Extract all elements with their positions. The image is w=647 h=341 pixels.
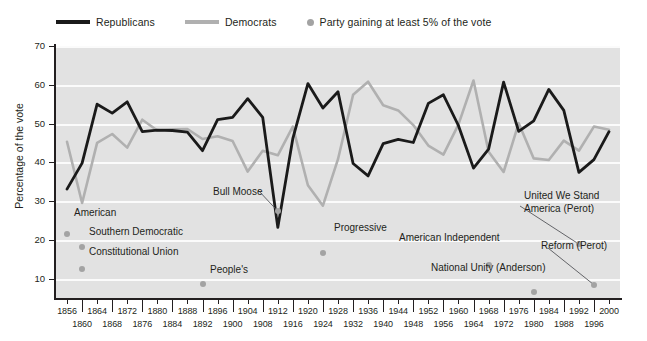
x-tick-label-1988: 1988	[547, 319, 581, 329]
x-tick-label-1976: 1976	[502, 306, 536, 316]
plot-area	[56, 46, 620, 298]
annotation-american: American	[74, 207, 116, 219]
third-party-dot-progressive	[320, 250, 326, 256]
x-tick-1872	[127, 299, 128, 304]
x-tick-label-1892: 1892	[186, 319, 220, 329]
y-tick-10	[49, 279, 54, 280]
y-tick-label-10: 10	[19, 273, 45, 284]
x-tick-1912	[278, 299, 279, 304]
x-tick-1856	[67, 299, 68, 304]
x-tick-label-1992: 1992	[562, 306, 596, 316]
x-tick-label-1996: 1996	[577, 319, 611, 329]
legend-label-democrats: Democrats	[225, 16, 277, 28]
chart-legend: Republicans Democrats Party gaining at l…	[56, 14, 491, 30]
x-tick-1952	[428, 299, 429, 304]
x-tick-label-1940: 1940	[366, 319, 400, 329]
democrats-line-swatch	[185, 20, 219, 24]
x-tick-1944	[398, 299, 399, 304]
x-tick-label-1936: 1936	[351, 306, 385, 316]
x-tick-label-1972: 1972	[487, 319, 521, 329]
x-tick-1960	[458, 299, 459, 304]
annotation-national-unity: National Unity (Anderson)	[431, 262, 546, 274]
y-tick-label-70: 70	[19, 40, 45, 51]
annotation-peoples: People's	[210, 264, 248, 276]
y-tick-50	[49, 124, 54, 125]
x-tick-1936	[368, 299, 369, 304]
y-tick-40	[49, 162, 54, 163]
x-tick-label-1880: 1880	[140, 306, 174, 316]
x-tick-1976	[519, 299, 520, 304]
annotation-bull-moose: Bull Moose	[213, 186, 262, 198]
x-tick-label-1956: 1956	[426, 319, 460, 329]
x-tick-label-1928: 1928	[321, 306, 355, 316]
y-tick-20	[49, 240, 54, 241]
annotation-uwsa-line1: United We Stand	[524, 190, 599, 202]
y-tick-label-30: 30	[19, 195, 45, 206]
x-tick-label-1924: 1924	[306, 319, 340, 329]
x-tick-label-1916: 1916	[276, 319, 310, 329]
x-tick-1992	[579, 299, 580, 304]
third-party-dot-reform-perot	[591, 282, 597, 288]
annotation-southern-democratic: Southern Democratic	[89, 226, 183, 238]
x-tick-label-1912: 1912	[261, 306, 295, 316]
third-party-dot-constitutional-union	[79, 266, 85, 272]
x-tick-label-2000: 2000	[592, 306, 626, 316]
y-tick-60	[49, 85, 54, 86]
x-tick-1904	[248, 299, 249, 304]
x-tick-label-1920: 1920	[291, 306, 325, 316]
annotation-constitutional-union: Constitutional Union	[89, 246, 179, 258]
annotation-reform: Reform (Perot)	[541, 240, 607, 252]
annotation-uwsa-line2: America (Perot)	[524, 203, 594, 215]
third-party-dot-people-s	[200, 281, 206, 287]
series-canvas	[56, 46, 620, 298]
x-tick-label-1864: 1864	[80, 306, 114, 316]
x-tick-1864	[97, 299, 98, 304]
democrats-series-line	[67, 81, 609, 206]
x-tick-label-1984: 1984	[532, 306, 566, 316]
x-tick-label-1872: 1872	[110, 306, 144, 316]
x-tick-label-1876: 1876	[125, 319, 159, 329]
leader-line	[548, 248, 594, 285]
legend-item-republicans: Republicans	[56, 16, 155, 28]
x-tick-1896	[218, 299, 219, 304]
y-tick-label-20: 20	[19, 234, 45, 245]
legend-label-third-party: Party gaining at least 5% of the vote	[320, 16, 492, 28]
x-tick-label-1960: 1960	[441, 306, 475, 316]
x-tick-2000	[609, 299, 610, 304]
legend-item-third-party: Party gaining at least 5% of the vote	[307, 16, 492, 28]
x-tick-label-1896: 1896	[201, 306, 235, 316]
legend-item-democrats: Democrats	[185, 16, 277, 28]
y-tick-label-50: 50	[19, 118, 45, 129]
x-tick-label-1968: 1968	[472, 306, 506, 316]
x-tick-1920	[308, 299, 309, 304]
third-party-dot-swatch	[307, 19, 314, 26]
y-tick-30	[49, 201, 54, 202]
chart-figure: Republicans Democrats Party gaining at l…	[0, 0, 647, 341]
annotation-progressive: Progressive	[334, 222, 387, 234]
x-tick-1928	[338, 299, 339, 304]
x-tick-label-1964: 1964	[457, 319, 491, 329]
x-tick-label-1868: 1868	[95, 319, 129, 329]
x-tick-label-1944: 1944	[381, 306, 415, 316]
x-tick-label-1884: 1884	[155, 319, 189, 329]
x-tick-1968	[489, 299, 490, 304]
x-tick-label-1888: 1888	[170, 306, 204, 316]
x-tick-1984	[549, 299, 550, 304]
x-tick-label-1952: 1952	[411, 306, 445, 316]
third-party-dot-bull-moose	[275, 208, 281, 214]
x-tick-1888	[187, 299, 188, 304]
annotation-american-independent: American Independent	[399, 232, 500, 244]
y-tick-label-40: 40	[19, 156, 45, 167]
x-tick-label-1980: 1980	[517, 319, 551, 329]
republicans-line-swatch	[56, 20, 90, 24]
x-tick-1880	[157, 299, 158, 304]
x-tick-label-1932: 1932	[336, 319, 370, 329]
third-party-dot-national-unity-anderson	[531, 289, 537, 295]
x-tick-label-1860: 1860	[65, 319, 99, 329]
y-tick-label-60: 60	[19, 79, 45, 90]
x-tick-label-1900: 1900	[216, 319, 250, 329]
third-party-dot-american	[64, 231, 70, 237]
x-tick-label-1904: 1904	[231, 306, 265, 316]
x-tick-label-1856: 1856	[50, 306, 84, 316]
x-tick-label-1908: 1908	[246, 319, 280, 329]
